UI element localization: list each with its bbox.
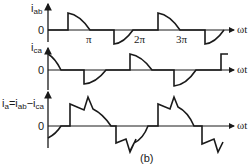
zero-label-iab: 0 — [38, 25, 44, 36]
figure-caption: (b) — [140, 153, 153, 164]
label-iab: iab — [31, 3, 42, 17]
panel-ia — [48, 92, 234, 152]
zero-label-ica: 0 — [38, 65, 44, 76]
x-label-ia: ωt — [237, 120, 247, 131]
tick-pi: π — [86, 34, 92, 45]
x-label-iab: ωt — [237, 24, 247, 35]
waveform-ia — [48, 97, 223, 152]
tick-3pi: 3π — [176, 34, 187, 45]
panel-ica — [48, 48, 234, 90]
label-ia: ia=iab−ica — [2, 98, 44, 112]
x-label-ica: ωt — [237, 64, 247, 75]
zero-label-ia: 0 — [38, 121, 44, 132]
label-ica: ica — [31, 42, 42, 56]
tick-2pi: 2π — [134, 34, 145, 45]
